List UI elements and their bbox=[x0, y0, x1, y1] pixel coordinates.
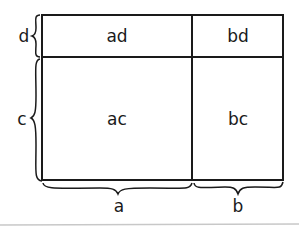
area-model-diagram: ad bd ac bc d c a b bbox=[0, 0, 299, 229]
cell-bd-label: bd bbox=[227, 26, 249, 46]
cell-bc-label: bc bbox=[228, 109, 248, 129]
side-label-b: b bbox=[233, 196, 244, 216]
bottom-rule bbox=[0, 224, 299, 225]
side-label-a: a bbox=[114, 196, 124, 216]
cell-ad-label: ad bbox=[106, 26, 127, 46]
brace-b-icon bbox=[194, 182, 283, 194]
side-label-c: c bbox=[17, 109, 26, 129]
side-label-d: d bbox=[19, 26, 30, 46]
brace-c-icon bbox=[31, 59, 42, 181]
brace-a-icon bbox=[43, 183, 192, 194]
cell-ac-label: ac bbox=[107, 109, 127, 129]
brace-d-icon bbox=[32, 15, 40, 57]
